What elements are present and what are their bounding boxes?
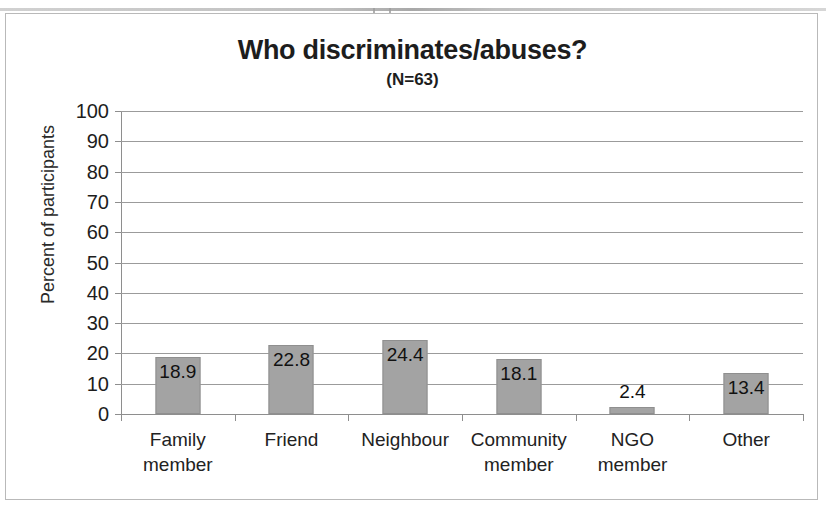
bar-value-label: 22.8 [273, 349, 310, 371]
bar-slot: 18.1 [462, 111, 576, 414]
y-tick-label-0: 0 [49, 403, 109, 426]
x-tick-label-line: Friend [227, 427, 357, 452]
y-tick-label-100: 100 [49, 100, 109, 123]
x-tick-mark [803, 414, 804, 421]
bar[interactable] [610, 407, 655, 414]
x-tick-label-line: member [454, 452, 584, 477]
bars-layer: 18.922.824.418.12.413.4 [121, 111, 803, 414]
x-tick-label-line: member [568, 452, 698, 477]
chart-figure-frame: Who discriminates/abuses? (N=63) Percent… [5, 13, 818, 500]
x-tick-mark [348, 414, 349, 421]
bar-value-label: 18.9 [159, 361, 196, 383]
bar-slot: 18.9 [121, 111, 235, 414]
y-tick-label-40: 40 [49, 281, 109, 304]
chart-title: Who discriminates/abuses? [6, 35, 819, 66]
y-tick-label-60: 60 [49, 221, 109, 244]
y-tick-label-50: 50 [49, 251, 109, 274]
x-tick-mark [121, 414, 122, 421]
x-tick-label: Friend [227, 427, 357, 452]
x-tick-label: Communitymember [454, 427, 584, 477]
y-tick-label-20: 20 [49, 342, 109, 365]
y-tick-label-30: 30 [49, 312, 109, 335]
x-tick-label-line: Community [454, 427, 584, 452]
plot-area: 0102030405060708090100 18.922.824.418.12… [121, 111, 803, 413]
x-tick-mark [462, 414, 463, 421]
x-tick-label: Neighbour [340, 427, 470, 452]
scan-artifact-line [0, 8, 826, 11]
x-tick-label: Other [681, 427, 811, 452]
y-tick-label-70: 70 [49, 190, 109, 213]
x-tick-label-line: NGO [568, 427, 698, 452]
bar-value-label: 2.4 [619, 381, 645, 403]
bar-slot: 24.4 [348, 111, 462, 414]
y-tick-label-10: 10 [49, 372, 109, 395]
bar-slot: 2.4 [576, 111, 690, 414]
bar-slot: 13.4 [689, 111, 803, 414]
y-tick-label-90: 90 [49, 130, 109, 153]
x-tick-label-line: member [113, 452, 243, 477]
x-tick-label-line: Family [113, 427, 243, 452]
x-tick-mark [235, 414, 236, 421]
chart-subtitle: (N=63) [6, 70, 819, 90]
x-tick-label-line: Other [681, 427, 811, 452]
x-tick-label: NGOmember [568, 427, 698, 477]
x-tick-mark [576, 414, 577, 421]
bar-value-label: 24.4 [387, 344, 424, 366]
bar-slot: 22.8 [235, 111, 349, 414]
x-tick-label: Familymember [113, 427, 243, 477]
y-axis-title: Percent of participants [38, 85, 59, 345]
x-tick-label-line: Neighbour [340, 427, 470, 452]
y-tick-label-80: 80 [49, 160, 109, 183]
x-tick-mark [689, 414, 690, 421]
bar-value-label: 13.4 [728, 377, 765, 399]
bar-value-label: 18.1 [500, 363, 537, 385]
